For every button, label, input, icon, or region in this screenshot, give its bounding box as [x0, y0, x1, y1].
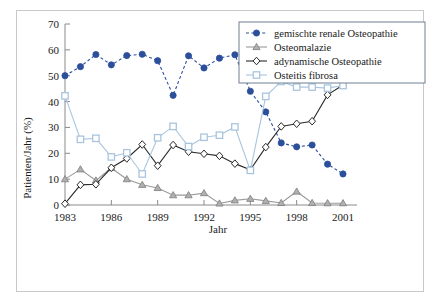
data-point	[124, 150, 130, 156]
data-point	[108, 62, 114, 68]
chart-legend: gemischte renale OsteopathieOsteomalazie…	[239, 22, 425, 83]
legend-swatch-marker	[253, 72, 259, 78]
y-tick-label: 0	[54, 199, 60, 211]
data-point	[77, 166, 84, 172]
data-point	[247, 167, 253, 173]
x-tick-label: 1983	[54, 211, 77, 223]
data-point	[293, 84, 299, 90]
data-point	[123, 176, 130, 182]
data-point	[77, 64, 83, 70]
data-point	[185, 143, 191, 149]
data-point	[201, 65, 207, 71]
y-tick-label: 10	[48, 173, 60, 185]
data-point	[263, 109, 269, 115]
data-point	[232, 124, 238, 130]
legend-label: Osteomalazie	[274, 42, 331, 53]
legend-label: Osteitis fibrosa	[274, 70, 338, 81]
data-point	[278, 140, 284, 146]
y-axis-title: Patienten/Jahr (%)	[21, 117, 34, 199]
chart-canvas: 0102030405060701983198619891992199519982…	[0, 0, 444, 306]
data-point	[201, 150, 208, 158]
x-tick-label: 1995	[239, 211, 262, 223]
y-tick-label: 50	[48, 70, 60, 82]
data-point	[324, 91, 331, 99]
data-point	[216, 132, 222, 138]
data-point	[62, 73, 68, 79]
data-point	[309, 117, 316, 125]
data-point	[216, 152, 223, 160]
x-axis-title: Jahr	[209, 223, 228, 235]
data-point	[93, 135, 99, 141]
data-point	[154, 135, 160, 141]
series-line	[65, 81, 343, 174]
series-2	[61, 164, 346, 206]
data-point	[324, 85, 330, 91]
data-point	[340, 171, 346, 177]
data-point	[294, 144, 300, 150]
data-point	[309, 142, 315, 148]
data-point	[263, 93, 269, 99]
data-point	[93, 51, 99, 57]
data-point	[309, 84, 315, 90]
x-tick-label: 1998	[286, 211, 309, 223]
y-tick-label: 70	[48, 18, 60, 30]
series-3	[62, 81, 347, 207]
series-4	[62, 78, 346, 177]
data-point	[62, 93, 68, 99]
data-point	[139, 51, 145, 57]
x-tick-label: 1986	[100, 211, 123, 223]
x-tick-label: 1992	[193, 211, 215, 223]
data-point	[77, 136, 83, 142]
data-point	[170, 92, 176, 98]
legend-label: adynamische Osteopathie	[274, 56, 382, 67]
y-tick-label: 30	[48, 121, 60, 133]
data-point	[139, 171, 145, 177]
data-point	[200, 190, 207, 196]
series-line	[65, 85, 343, 204]
data-point	[232, 52, 238, 58]
data-point	[231, 160, 238, 168]
data-point	[293, 188, 300, 194]
y-tick-label: 20	[48, 147, 60, 159]
data-point	[185, 53, 191, 59]
legend-label: gemischte renale Osteopathie	[274, 28, 398, 39]
data-point	[247, 88, 253, 94]
data-point	[124, 52, 130, 58]
y-tick-label: 60	[48, 44, 60, 56]
data-point	[170, 123, 176, 129]
data-point	[293, 120, 300, 128]
data-point	[247, 195, 254, 201]
x-tick-label: 1989	[147, 211, 170, 223]
data-point	[201, 134, 207, 140]
data-point	[216, 55, 222, 61]
data-point	[155, 58, 161, 64]
data-point	[108, 154, 114, 160]
y-tick-label: 40	[48, 96, 60, 108]
data-point	[324, 161, 330, 167]
x-tick-label: 2001	[332, 211, 354, 223]
legend-swatch-marker	[253, 30, 259, 36]
